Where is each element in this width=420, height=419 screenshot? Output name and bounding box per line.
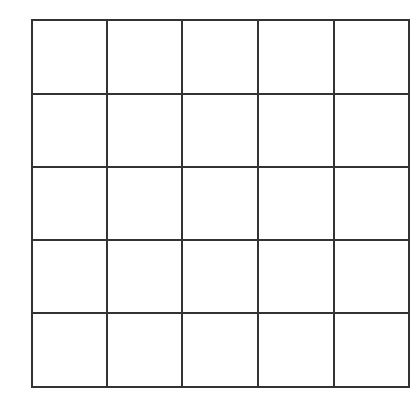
grid-cell [32,240,107,313]
grid-cell [107,20,182,94]
grid-cell [334,313,409,387]
grid-cell [258,313,334,387]
grid-cell [32,20,107,94]
grid-cell [258,167,334,240]
grid-diagram [0,0,420,419]
grid-cell [107,313,182,387]
grid-cell [107,240,182,313]
grid-cell [258,240,334,313]
grid-cell [182,240,258,313]
grid-cell [32,94,107,167]
grid-cell [182,20,258,94]
grid-cell [334,240,409,313]
grid-cell [32,167,107,240]
grid-cell [182,313,258,387]
grid-cell [334,94,409,167]
grid-cell [334,20,409,94]
grid-cell [182,94,258,167]
grid-cell [107,94,182,167]
grid-cell [258,20,334,94]
grid-cell [107,167,182,240]
grid-cell [182,167,258,240]
grid-cell [32,313,107,387]
grid-lines [32,20,409,387]
grid-cell [258,94,334,167]
grid-cell [334,167,409,240]
